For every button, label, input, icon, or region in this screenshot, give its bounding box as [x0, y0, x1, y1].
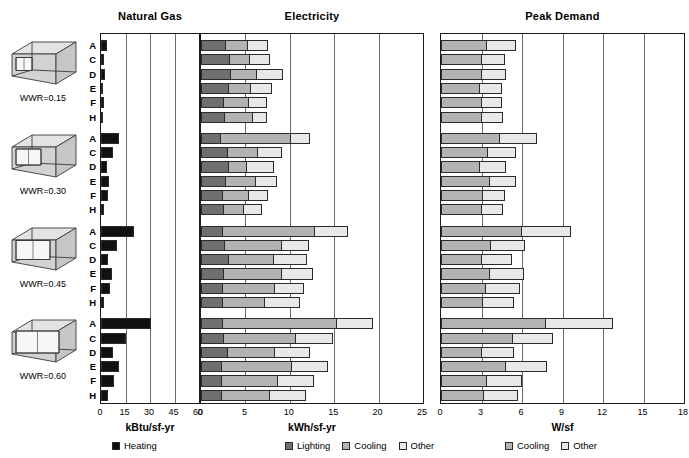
bar-segment-other	[479, 161, 506, 172]
row-label-g2-C: C	[82, 241, 96, 251]
bar-electricity-g0-D	[201, 69, 285, 80]
bar-peak_demand-g3-H	[441, 390, 519, 401]
bar-segment-cooling	[228, 83, 251, 94]
bar-segment-other	[482, 190, 505, 201]
row-label-g0-F: F	[82, 98, 96, 108]
bar-segment-other	[252, 112, 267, 123]
row-label-g3-A: A	[82, 319, 96, 329]
bar-segment-cooling	[222, 318, 337, 329]
bar-electricity-g2-H	[201, 297, 302, 308]
row-label-g3-D: D	[82, 348, 96, 358]
bar-segment-lighting	[201, 297, 223, 308]
bar-natural_gas-g2-A	[101, 226, 134, 237]
bar-electricity-g2-A	[201, 226, 350, 237]
gridline-natural_gas-45	[175, 34, 176, 403]
bar-segment-heating	[101, 147, 113, 158]
bar-peak_demand-g1-H	[441, 204, 504, 215]
bar-natural_gas-g1-C	[101, 147, 113, 158]
bar-segment-cooling	[223, 204, 244, 215]
bar-segment-cooling	[441, 375, 487, 386]
bar-natural_gas-g2-D	[101, 254, 108, 265]
bar-segment-cooling	[441, 254, 482, 265]
bar-segment-cooling	[228, 254, 273, 265]
bar-segment-heating	[101, 133, 119, 144]
xtick-electricity-0: 0	[188, 408, 212, 417]
bar-segment-heating	[101, 390, 108, 401]
row-label-g0-D: D	[82, 70, 96, 80]
bar-segment-other	[481, 97, 503, 108]
legend-item-cooling: Cooling	[505, 440, 549, 451]
legend-swatch-other	[561, 442, 569, 450]
bar-electricity-g0-F	[201, 97, 269, 108]
bar-segment-heating	[101, 347, 113, 358]
panel-title-peak_demand: Peak Demand	[440, 10, 685, 22]
wwr-label-0: WWR=0.15	[6, 93, 80, 103]
bar-segment-other	[545, 318, 613, 329]
bar-segment-cooling	[441, 318, 546, 329]
bar-segment-cooling	[229, 54, 249, 65]
bar-natural_gas-g1-F	[101, 190, 108, 201]
building-thumbnail-0	[6, 36, 80, 98]
bar-segment-other	[273, 254, 308, 265]
legend-electricity: LightingCoolingOther	[285, 440, 434, 451]
bar-segment-cooling	[441, 240, 491, 251]
bar-segment-other	[295, 333, 333, 344]
bar-segment-other	[274, 347, 310, 358]
legend-swatch-cooling	[505, 442, 513, 450]
row-label-g1-E: E	[82, 177, 96, 187]
bar-segment-lighting	[201, 133, 221, 144]
bar-segment-other	[481, 112, 504, 123]
gridline-peak_demand-9	[563, 34, 564, 403]
row-label-g3-E: E	[82, 362, 96, 372]
bar-peak_demand-g2-F	[441, 283, 521, 294]
row-label-g0-H: H	[82, 113, 96, 123]
bar-segment-cooling	[441, 161, 480, 172]
bar-segment-lighting	[201, 283, 223, 294]
bar-electricity-g2-C	[201, 240, 311, 251]
bar-segment-heating	[101, 375, 114, 386]
bar-natural_gas-g0-H	[101, 112, 103, 123]
gridline-peak_demand-12	[603, 34, 604, 403]
figure-canvas: Natural Gas015304560kBtu/sf-yrHeatingEle…	[0, 0, 689, 458]
bar-segment-heating	[101, 297, 104, 308]
bar-segment-other	[482, 297, 514, 308]
bar-segment-cooling	[441, 97, 482, 108]
bar-natural_gas-g0-E	[101, 83, 103, 94]
axis-title-peak_demand: W/sf	[440, 421, 685, 433]
bar-peak_demand-g1-A	[441, 133, 538, 144]
row-label-g0-E: E	[82, 84, 96, 94]
bar-segment-other	[481, 254, 512, 265]
bar-natural_gas-g2-F	[101, 283, 110, 294]
legend-natural_gas: Heating	[112, 440, 157, 451]
panel-title-natural_gas: Natural Gas	[100, 10, 200, 22]
bar-segment-other	[281, 268, 313, 279]
bar-segment-other	[481, 204, 504, 215]
building-thumbnail-3	[6, 314, 80, 376]
xtick-peak_demand-0: 0	[428, 408, 452, 417]
legend-peak_demand: CoolingOther	[505, 440, 597, 451]
bar-peak_demand-g0-C	[441, 54, 506, 65]
row-label-g2-H: H	[82, 298, 96, 308]
bar-segment-cooling	[441, 133, 500, 144]
bar-segment-cooling	[227, 347, 275, 358]
legend-item-lighting: Lighting	[285, 440, 330, 451]
bar-peak_demand-g0-D	[441, 69, 507, 80]
bar-segment-lighting	[201, 161, 229, 172]
bar-segment-cooling	[441, 283, 486, 294]
bar-segment-lighting	[201, 318, 223, 329]
bar-electricity-g1-D	[201, 161, 276, 172]
bar-segment-cooling	[222, 283, 274, 294]
bar-segment-heating	[101, 333, 126, 344]
bar-electricity-g1-E	[201, 176, 279, 187]
bar-electricity-g2-F	[201, 283, 306, 294]
legend-item-other: Other	[561, 440, 597, 451]
bar-electricity-g3-A	[201, 318, 375, 329]
bar-segment-other	[269, 390, 306, 401]
bar-segment-cooling	[224, 240, 282, 251]
bar-segment-cooling	[225, 176, 256, 187]
bar-segment-other	[274, 283, 304, 294]
bar-segment-other	[512, 333, 554, 344]
plot-area-natural_gas	[100, 33, 200, 404]
xtick-electricity-15: 15	[321, 408, 345, 417]
building-thumbnail-2	[6, 222, 80, 284]
